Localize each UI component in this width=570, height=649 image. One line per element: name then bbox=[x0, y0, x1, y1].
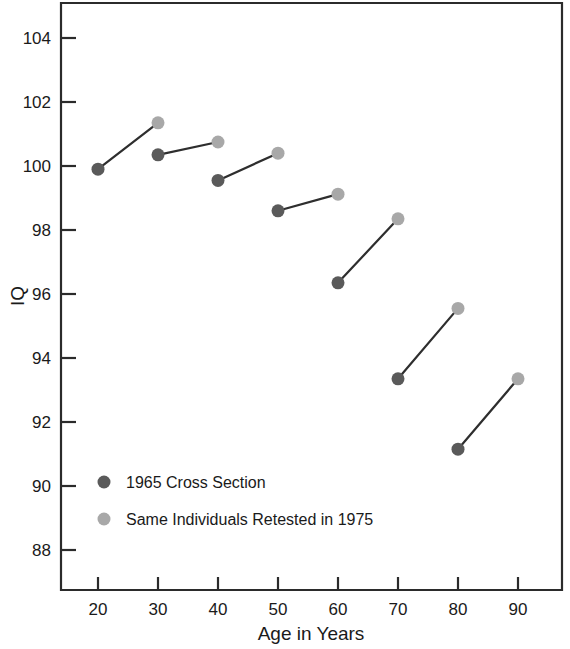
data-point-1975-age-40 bbox=[212, 136, 225, 149]
x-tick-label-20: 20 bbox=[89, 600, 108, 619]
y-tick-label-90: 90 bbox=[32, 477, 51, 496]
legend-marker-2 bbox=[98, 513, 111, 526]
data-point-1965-age-40 bbox=[212, 174, 225, 187]
data-point-1975-age-90 bbox=[512, 372, 525, 385]
data-point-1975-age-30 bbox=[152, 116, 165, 129]
y-tick-label-92: 92 bbox=[32, 413, 51, 432]
data-point-1965-age-20 bbox=[92, 163, 105, 176]
data-point-1965-age-30 bbox=[152, 148, 165, 161]
iq-age-scatter-chart: 104102100989694929088 2030405060708090 A… bbox=[0, 0, 570, 649]
y-tick-label-98: 98 bbox=[32, 221, 51, 240]
x-tick-label-60: 60 bbox=[329, 600, 348, 619]
legend-label-1: 1965 Cross Section bbox=[126, 474, 266, 491]
y-tick-label-94: 94 bbox=[32, 349, 51, 368]
y-tick-label-96: 96 bbox=[32, 285, 51, 304]
legend-marker-1 bbox=[98, 476, 111, 489]
data-point-1975-age-80 bbox=[452, 302, 465, 315]
chart-background bbox=[0, 0, 570, 649]
x-tick-label-40: 40 bbox=[209, 600, 228, 619]
data-point-1975-age-70 bbox=[392, 212, 405, 225]
x-tick-label-80: 80 bbox=[449, 600, 468, 619]
x-tick-label-70: 70 bbox=[389, 600, 408, 619]
y-tick-label-100: 100 bbox=[23, 157, 51, 176]
y-axis-title: IQ bbox=[7, 286, 28, 306]
y-tick-label-102: 102 bbox=[23, 93, 51, 112]
data-point-1975-age-60 bbox=[332, 188, 345, 201]
data-point-1965-age-60 bbox=[332, 276, 345, 289]
y-tick-label-88: 88 bbox=[32, 541, 51, 560]
x-axis-title: Age in Years bbox=[258, 623, 365, 644]
data-point-1975-age-50 bbox=[272, 147, 285, 160]
x-tick-label-50: 50 bbox=[269, 600, 288, 619]
chart-figure: 104102100989694929088 2030405060708090 A… bbox=[0, 0, 570, 649]
data-point-1965-age-50 bbox=[272, 204, 285, 217]
x-tick-label-90: 90 bbox=[509, 600, 528, 619]
legend-label-2: Same Individuals Retested in 1975 bbox=[126, 511, 373, 528]
data-point-1965-age-70 bbox=[392, 372, 405, 385]
data-point-1965-age-80 bbox=[452, 443, 465, 456]
y-tick-label-104: 104 bbox=[23, 29, 51, 48]
x-tick-label-30: 30 bbox=[149, 600, 168, 619]
